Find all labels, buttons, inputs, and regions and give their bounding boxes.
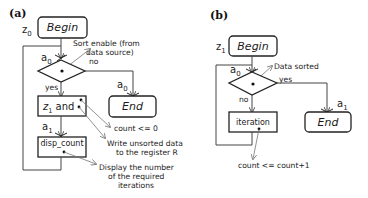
panel-a-state-node: z1 and	[38, 96, 86, 116]
panel-a-end-node: End	[109, 96, 156, 117]
panel-a-action2-pointer	[79, 107, 105, 138]
panel-b: (b) z1 Begin a0 Data sorted yes a1 End n…	[210, 9, 351, 170]
panel-a-action1: count <= 0	[114, 124, 158, 133]
panel-a: (a) z0 Begin a0 Sort enable (from data s…	[9, 7, 183, 190]
panel-a-disp-signal: a1	[42, 121, 53, 135]
panel-b-iteration-action: count <= count+1	[238, 161, 310, 170]
panel-a-action2-line2: to the register R	[116, 148, 179, 157]
panel-a-label: (a)	[9, 7, 27, 20]
panel-a-disp-action-line1: Display the number	[99, 163, 175, 172]
panel-a-branch-no: no	[89, 57, 99, 66]
panel-a-begin-state: z0	[22, 24, 32, 38]
panel-a-begin-label: Begin	[47, 21, 78, 34]
panel-a-disp-action-line3: iterations	[118, 181, 154, 190]
panel-b-begin-node: Begin	[229, 36, 277, 56]
panel-a-disp-node: disp_count	[38, 137, 86, 157]
panel-a-begin-node: Begin	[38, 17, 87, 38]
panel-b-iteration-pointer	[253, 129, 259, 159]
panel-a-disp-label: disp_count	[40, 139, 83, 148]
panel-a-disp-action-line2: of the required	[108, 172, 165, 181]
flowchart-canvas: (a) z0 Begin a0 Sort enable (from data s…	[0, 0, 368, 198]
panel-a-decision-condition-line1: Sort enable (from	[73, 39, 140, 48]
panel-b-end-signal: a1	[337, 98, 348, 112]
panel-a-decision-node	[38, 60, 85, 82]
panel-b-end-label: End	[318, 116, 340, 129]
panel-b-label: (b)	[210, 9, 228, 22]
panel-b-iteration-node: iteration	[229, 112, 277, 132]
panel-b-edge-yes-end	[277, 83, 327, 112]
panel-a-decision-condition-line2: data source)	[86, 48, 134, 57]
panel-a-end-label: End	[122, 100, 144, 113]
panel-a-end-signal: a0	[117, 79, 128, 93]
panel-b-iteration-label: iteration	[236, 118, 270, 127]
panel-a-branch-yes: yes	[45, 83, 58, 92]
panel-b-end-node: End	[305, 112, 351, 132]
panel-b-decision-signal: a0	[230, 64, 241, 78]
panel-b-begin-state: z1	[216, 41, 226, 55]
bullet-icon	[60, 69, 63, 72]
panel-b-begin-label: Begin	[237, 40, 268, 53]
panel-b-branch-no: no	[239, 95, 249, 104]
bullet-icon	[251, 82, 254, 85]
panel-a-decision-signal: a0	[41, 52, 52, 66]
panel-a-action2-line1: Write unsorted data	[107, 139, 183, 148]
panel-b-decision-condition: Data sorted	[274, 62, 319, 71]
